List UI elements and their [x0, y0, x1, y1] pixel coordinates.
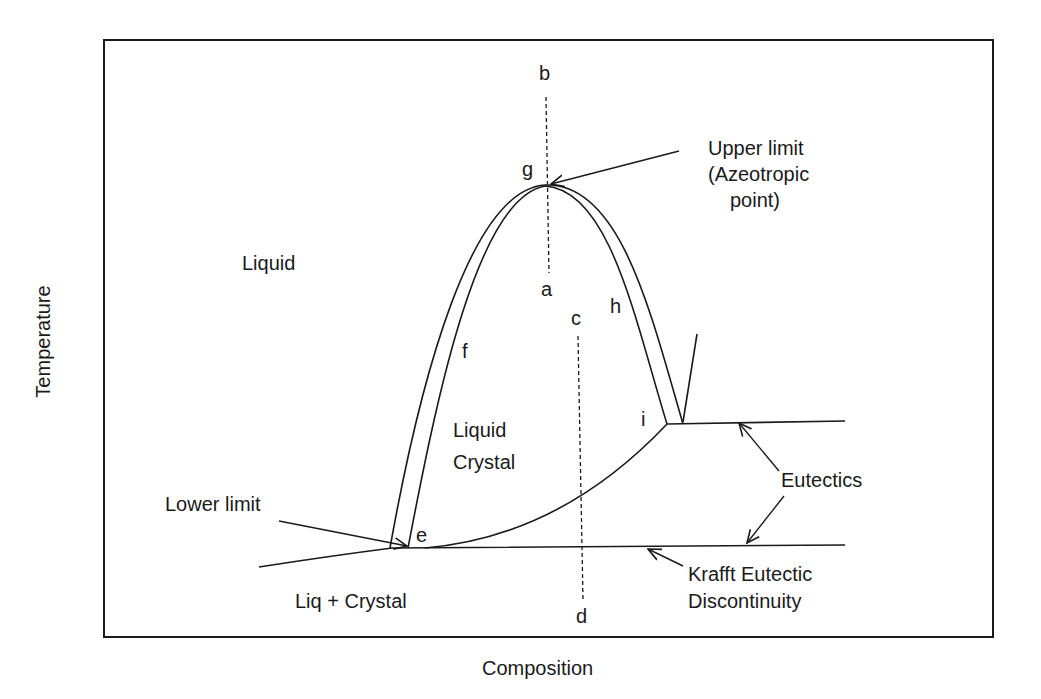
- dome-outer-curve: [390, 185, 683, 548]
- eutectics-arrow-upper: [739, 423, 779, 471]
- annotation-upper-limit-1: Upper limit: [708, 137, 804, 159]
- point-e: e: [416, 524, 427, 546]
- y-axis-label: Temperature: [32, 272, 55, 412]
- dome-inner-curve: [408, 186, 667, 548]
- annotation-krafft-2: Discontinuity: [688, 590, 801, 612]
- point-g: g: [522, 158, 533, 180]
- point-d: d: [576, 605, 587, 627]
- upper-limit-arrow: [551, 151, 679, 184]
- dome-tick-line: [683, 334, 697, 422]
- point-i: i: [641, 408, 645, 430]
- eutectics-arrow-lower: [747, 496, 784, 543]
- annotation-upper-limit-3: point): [730, 189, 780, 211]
- region-liquid: Liquid: [242, 252, 295, 274]
- isopleth-c-d: [578, 336, 583, 600]
- krafft-arrow: [648, 549, 683, 566]
- point-h: h: [610, 295, 621, 317]
- annotation-upper-limit-2: (Azeotropic: [708, 163, 809, 185]
- point-b: b: [539, 62, 550, 84]
- lower-limit-arrow: [279, 521, 407, 546]
- region-liquid-crystal-line2: Crystal: [453, 451, 515, 473]
- region-liq-crystal: Liq + Crystal: [295, 590, 407, 612]
- annotation-eutectics: Eutectics: [781, 469, 862, 491]
- region-liquid-crystal-line1: Liquid: [453, 419, 506, 441]
- annotation-krafft-1: Krafft Eutectic: [688, 563, 812, 585]
- point-a: a: [541, 278, 552, 300]
- point-c: c: [571, 307, 581, 329]
- phase-diagram-canvas: [0, 0, 1041, 699]
- annotation-lower-limit: Lower limit: [165, 493, 261, 515]
- solubility-curve: [425, 424, 667, 548]
- upper-eutectic-line: [667, 421, 845, 424]
- point-f: f: [462, 340, 468, 362]
- x-axis-label: Composition: [482, 657, 593, 679]
